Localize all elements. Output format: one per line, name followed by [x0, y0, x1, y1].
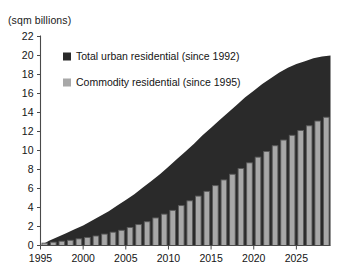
y-tick-label: 2: [28, 220, 34, 232]
bar-commodity-residential: [221, 180, 227, 246]
legend-label: Commodity residential (since 1995): [76, 76, 241, 88]
bar-commodity-residential: [298, 131, 304, 246]
x-tick-label: 2015: [199, 252, 223, 264]
bar-commodity-residential: [93, 236, 99, 246]
legend-swatch: [63, 53, 71, 61]
bar-commodity-residential: [187, 201, 193, 246]
y-tick-label: 8: [28, 163, 34, 175]
y-tick-label: 14: [22, 106, 34, 118]
y-axis-tick-labels: 0246810121416182022: [22, 30, 34, 251]
y-tick-label: 12: [22, 125, 34, 137]
chart-container: (sqm billions) 0246810121416182022 19952…: [0, 0, 349, 280]
bar-commodity-residential: [119, 230, 125, 245]
bar-commodity-residential: [247, 163, 253, 246]
legend-label: Total urban residential (since 1992): [76, 50, 239, 62]
bar-commodity-residential: [315, 121, 321, 245]
y-tick-label: 6: [28, 182, 34, 194]
bar-commodity-residential: [161, 214, 167, 245]
x-tick-label: 2020: [242, 252, 266, 264]
x-axis-tick-labels: 1995200020052010201520202025: [29, 252, 308, 264]
y-tick-label: 10: [22, 144, 34, 156]
bar-commodity-residential: [127, 227, 133, 245]
bar-commodity-residential: [136, 225, 142, 246]
bar-commodity-residential: [59, 241, 65, 245]
bar-commodity-residential: [323, 117, 329, 245]
x-tick-label: 1995: [29, 252, 53, 264]
bar-commodity-residential: [264, 151, 270, 245]
bar-commodity-residential: [102, 234, 108, 245]
y-tick-label: 4: [28, 201, 34, 213]
bar-commodity-residential: [289, 135, 295, 245]
x-tick-label: 2025: [285, 252, 309, 264]
bar-commodity-residential: [76, 239, 82, 246]
legend-swatch: [63, 79, 71, 87]
bar-commodity-residential: [255, 157, 261, 245]
bar-commodity-residential: [110, 232, 116, 245]
y-tick-label: 18: [22, 68, 34, 80]
bar-commodity-residential: [213, 186, 219, 246]
bar-commodity-residential: [153, 218, 159, 246]
x-tick-label: 2000: [71, 252, 95, 264]
bar-commodity-residential: [272, 146, 278, 246]
bar-commodity-residential: [306, 126, 312, 246]
bar-commodity-residential: [170, 210, 176, 245]
bar-commodity-residential: [281, 140, 287, 245]
bar-commodity-residential: [85, 237, 91, 245]
y-tick-label: 16: [22, 87, 34, 99]
y-tick-label: 22: [22, 30, 34, 42]
chart-plot-area: 0246810121416182022 19952000200520102015…: [0, 0, 349, 280]
bar-commodity-residential: [195, 196, 201, 245]
bar-commodity-residential: [204, 191, 210, 245]
x-tick-label: 2005: [114, 252, 138, 264]
bar-commodity-residential: [68, 240, 74, 245]
chart-legend: Total urban residential (since 1992)Comm…: [63, 50, 241, 88]
bar-commodity-residential: [230, 174, 236, 245]
y-tick-label: 20: [22, 49, 34, 61]
x-tick-label: 2010: [157, 252, 181, 264]
y-tick-label: 0: [28, 239, 34, 251]
bar-commodity-residential: [178, 206, 184, 246]
bar-commodity-residential: [238, 169, 244, 246]
bar-commodity-residential: [144, 222, 150, 246]
